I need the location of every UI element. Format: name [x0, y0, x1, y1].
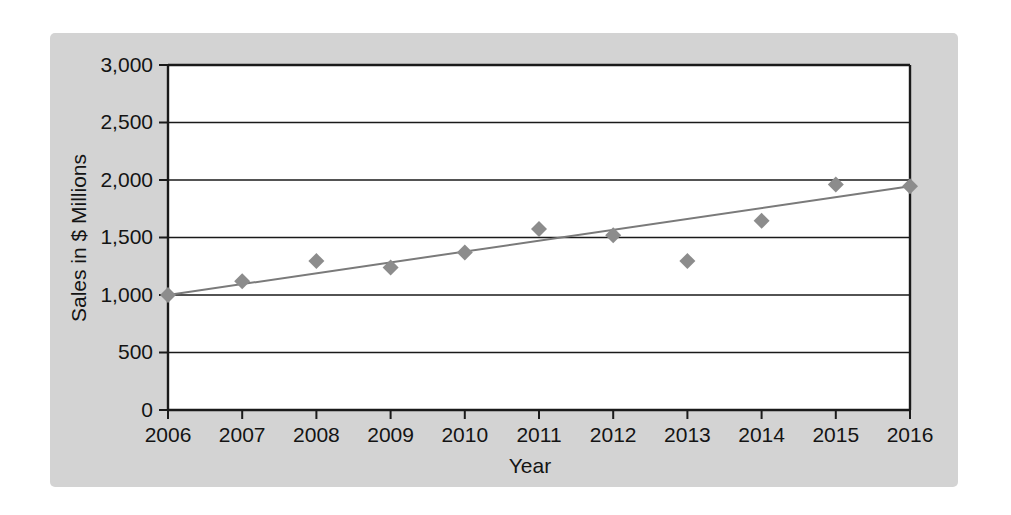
y-axis-tick-label: 3,000 — [100, 53, 153, 76]
y-axis-tick-label: 1,500 — [100, 225, 153, 248]
x-axis-tick-label: 2007 — [219, 423, 266, 446]
x-axis-tick-label: 2011 — [516, 423, 561, 446]
x-axis-tick-label: 2015 — [812, 423, 859, 446]
y-axis-tick-label: 1,000 — [100, 283, 153, 306]
y-axis-title: Sales in $ Millions — [67, 154, 90, 322]
page-root: 05001,0001,5002,0002,5003,000 2006200720… — [0, 0, 1011, 515]
x-axis-tick-label: 2008 — [293, 423, 340, 446]
y-axis-tick-label: 0 — [141, 398, 153, 421]
x-axis-tick-label: 2012 — [590, 423, 637, 446]
x-axis-title: Year — [509, 454, 551, 477]
y-axis-tick-label: 500 — [118, 340, 153, 363]
x-axis-tick-label: 2013 — [664, 423, 711, 446]
x-axis-tick-label: 2010 — [441, 423, 488, 446]
y-axis-ticks-group: 05001,0001,5002,0002,5003,000 — [100, 53, 168, 421]
x-axis-tick-label: 2009 — [367, 423, 414, 446]
x-axis-tick-label: 2006 — [145, 423, 192, 446]
x-axis-tick-label: 2016 — [887, 423, 934, 446]
y-axis-tick-label: 2,500 — [100, 110, 153, 133]
scatter-chart: 05001,0001,5002,0002,5003,000 2006200720… — [0, 0, 1011, 515]
x-axis-tick-label: 2014 — [738, 423, 785, 446]
x-axis-ticks-group: 2006200720082009201020112012201320142015… — [145, 410, 934, 446]
y-axis-tick-label: 2,000 — [100, 168, 153, 191]
